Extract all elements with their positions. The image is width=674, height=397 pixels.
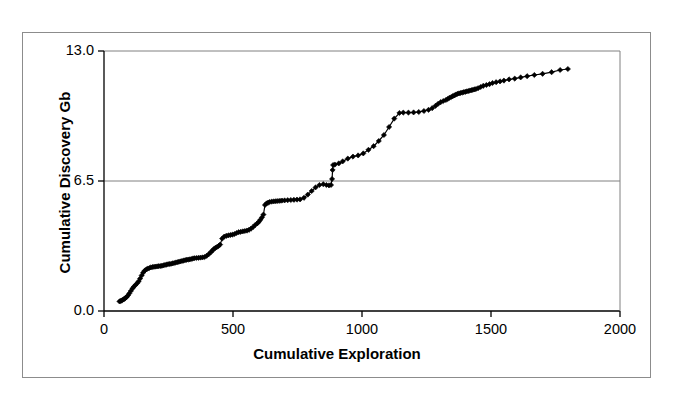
y-tick-label: 0.0 — [34, 302, 94, 318]
chart-plot-area — [0, 0, 674, 397]
gridlines — [104, 51, 620, 181]
x-tick-label: 500 — [203, 321, 263, 337]
x-tick-label: 1000 — [332, 321, 392, 337]
series-line-cumulative-discovery — [119, 69, 567, 301]
series-markers-cumulative-discovery — [117, 66, 571, 304]
axis-ticks — [98, 51, 620, 317]
x-tick-label: 1500 — [461, 321, 521, 337]
y-tick-label: 6.5 — [34, 172, 94, 188]
chart-figure: Cumulative Exploration Cumulative Discov… — [0, 0, 674, 397]
y-tick-label: 13.0 — [34, 42, 94, 58]
x-tick-label: 2000 — [590, 321, 650, 337]
x-axis-title: Cumulative Exploration — [0, 345, 674, 362]
x-tick-label: 0 — [74, 321, 134, 337]
